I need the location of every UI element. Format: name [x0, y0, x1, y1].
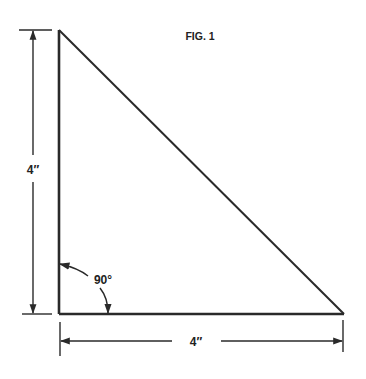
angle-label: 90°: [94, 273, 112, 287]
right-angle-marker: 90°: [60, 264, 112, 313]
base-label: 4″: [190, 335, 203, 349]
angle-arc-lower: [100, 288, 108, 313]
figure-title: FIG. 1: [185, 30, 214, 42]
height-label: 4″: [27, 163, 40, 177]
right-triangle: [59, 30, 344, 314]
angle-arc-upper: [60, 264, 88, 276]
hypotenuse: [59, 30, 344, 314]
figure-canvas: 4″ 4″ 90° FIG. 1: [0, 0, 366, 379]
height-dimension: 4″: [19, 30, 52, 314]
base-dimension: 4″: [60, 320, 343, 356]
